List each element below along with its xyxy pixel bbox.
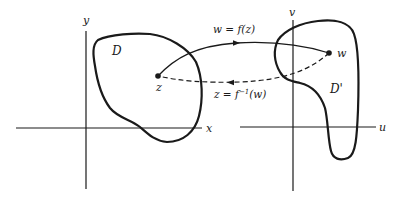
inverse-arrowhead-icon <box>227 80 234 85</box>
v-axis-label: v <box>289 6 296 19</box>
region-d-label: D <box>111 44 122 58</box>
forward-arrowhead-icon <box>233 40 240 45</box>
inverse-label-suffix: (w) <box>249 88 266 100</box>
z-plane: x y D z <box>16 14 213 189</box>
region-d-prime <box>275 20 359 159</box>
x-axis-label: x <box>206 122 213 135</box>
conformal-mapping-diagram: x y D z u v D' w w = f(z) z = f−1(w) <box>0 0 404 202</box>
y-axis-label: y <box>82 14 90 27</box>
inverse-mapping-label: z = f−1(w) <box>213 88 266 100</box>
point-z-label: z <box>155 81 162 94</box>
inverse-mapping: z = f−1(w) <box>158 53 329 100</box>
region-d <box>93 34 201 142</box>
inverse-label-exponent: −1 <box>239 88 249 96</box>
inverse-mapping-arc <box>158 53 329 82</box>
forward-mapping-label: w = f(z) <box>213 23 255 35</box>
point-w-label: w <box>337 47 347 60</box>
region-d-prime-label: D' <box>329 82 343 96</box>
u-axis-label: u <box>379 121 386 134</box>
inverse-label-prefix: z = f <box>213 88 241 100</box>
